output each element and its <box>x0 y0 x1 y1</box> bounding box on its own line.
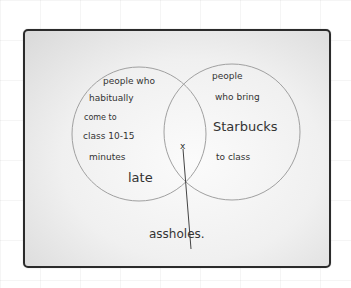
left-set-label: people who habitually come to class 10-1… <box>83 76 155 185</box>
right-line-4: to class <box>216 152 251 162</box>
right-line-1: people <box>212 71 243 81</box>
left-line-4: class 10-15 <box>83 131 134 141</box>
left-line-1: people who <box>103 76 155 86</box>
right-line-3: Starbucks <box>213 119 278 134</box>
left-line-5: minutes <box>89 152 126 162</box>
venn-diagram: people who habitually come to class 10-1… <box>0 0 351 288</box>
right-line-2: who bring <box>215 92 260 102</box>
intersection-label: assholes. <box>149 227 205 241</box>
left-line-3: come to <box>84 113 117 122</box>
left-line-2: habitually <box>89 93 134 103</box>
left-line-6: late <box>128 170 153 185</box>
right-set-label: people who bring Starbucks to class <box>212 71 278 162</box>
